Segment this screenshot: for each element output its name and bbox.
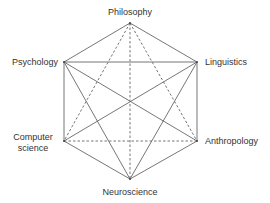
hexagon-diagram: PhilosophyPsychologyLinguisticsComputers…: [0, 0, 270, 203]
edge-computer-science-neuroscience: [64, 141, 130, 179]
edge-philosophy-computer-science: [64, 23, 130, 141]
edges: [64, 23, 197, 179]
node-label-psychology: Psychology: [12, 57, 59, 67]
edge-psychology-neuroscience: [64, 62, 130, 179]
node-label-computer-science: Computer: [13, 132, 53, 142]
edge-philosophy-psychology: [64, 23, 130, 62]
node-label-neuroscience: Neuroscience: [102, 187, 157, 197]
node-psychology-dot: [63, 61, 65, 63]
edge-anthropology-neuroscience: [130, 141, 197, 179]
node-computer-science-dot: [63, 140, 65, 142]
labels: PhilosophyPsychologyLinguisticsComputers…: [12, 7, 259, 197]
node-philosophy-dot: [129, 22, 131, 24]
node-anthropology-dot: [196, 140, 198, 142]
node-neuroscience-dot: [129, 178, 131, 180]
node-label-computer-science: science: [18, 143, 49, 153]
node-label-linguistics: Linguistics: [205, 57, 248, 67]
edge-philosophy-linguistics: [130, 23, 197, 62]
node-label-philosophy: Philosophy: [108, 7, 153, 17]
edge-linguistics-neuroscience: [130, 62, 197, 179]
node-linguistics-dot: [196, 61, 198, 63]
node-label-anthropology: Anthropology: [205, 136, 259, 146]
edge-philosophy-anthropology: [130, 23, 197, 141]
